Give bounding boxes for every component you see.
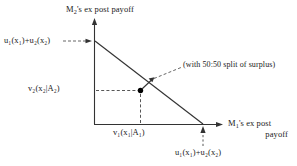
- surplus-split-annotation: (with 50:50 split of surplus): [183, 60, 275, 69]
- v1-axis-label: v₁(x₁|A₁): [113, 128, 145, 138]
- y-intercept-label: u₁(x₁)+u₂(x₂): [4, 36, 50, 46]
- x-axis-title-line2: payoff: [228, 129, 294, 140]
- y-axis-title-symbol: M: [66, 4, 74, 14]
- surplus-note-leader-line: [154, 68, 181, 79]
- x-axis-title-subscript: 1: [236, 122, 239, 129]
- x-axis-title-rest: 's ex post: [239, 118, 271, 128]
- ex-post-payoff-diagram: M2's ex post payoff M1's ex post payoff …: [0, 0, 297, 166]
- y-axis-title-subscript: 2: [74, 8, 77, 15]
- x-axis-title: M1's ex post payoff: [228, 118, 294, 139]
- x-axis-title-symbol: M: [228, 118, 236, 128]
- x-axis-arrowhead: [216, 122, 223, 127]
- v2-axis-label: v₂(x₂|A₂): [28, 84, 60, 94]
- y-intercept-leader-arrowhead: [86, 39, 93, 44]
- x-intercept-leader-arrowhead: [200, 126, 205, 133]
- y-axis-title-rest: 's ex post payoff: [77, 4, 134, 14]
- y-axis-arrowhead: [92, 18, 97, 25]
- y-axis-title: M2's ex post payoff: [66, 5, 134, 15]
- x-intercept-label: u₁(x₁)+u₂(x₂): [175, 148, 221, 158]
